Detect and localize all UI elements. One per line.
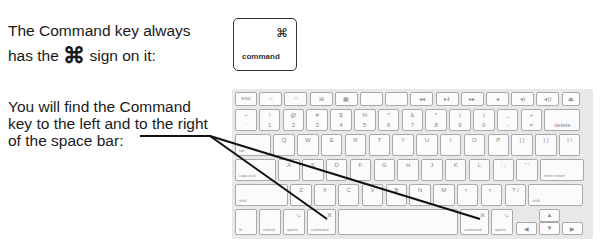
fn-modifier-key: fn	[235, 209, 257, 235]
letter-key: I	[440, 134, 462, 156]
option-key-right: ⌥option	[491, 209, 513, 235]
fn-key: ☼	[259, 92, 282, 106]
location-text: You will find the Command key to the lef…	[8, 98, 208, 149]
fn-key: ◂))	[536, 92, 559, 106]
location-line-3: of the space bar:	[8, 132, 208, 149]
fn-key	[360, 92, 383, 106]
number-key: !1	[259, 109, 281, 131]
letter-key: " '	[516, 159, 538, 181]
letter-key: Y	[392, 134, 414, 156]
letter-key: < ,	[457, 184, 479, 206]
arrow-down-key: ▼	[539, 222, 560, 235]
letter-key: A	[278, 159, 300, 181]
fn-key: ◂◂	[410, 92, 433, 106]
number-key: ^6	[378, 109, 400, 131]
shift-key: shift	[528, 184, 583, 206]
fn-key: esc	[235, 92, 257, 106]
letter-key: C	[338, 184, 360, 206]
number-key: _-	[497, 109, 519, 131]
number-key: (9	[449, 109, 471, 131]
fn-key: ◂)	[511, 92, 534, 106]
fn-key: ▦	[335, 92, 358, 106]
caps-lock-key: caps lock	[235, 159, 276, 181]
letter-key: P	[488, 134, 510, 156]
fn-key: ☼	[284, 92, 307, 106]
number-key: +=	[521, 109, 543, 131]
letter-key: G	[374, 159, 396, 181]
tab-key: tab	[235, 134, 271, 156]
command-key-right: ⌘command	[460, 209, 489, 235]
return-key: enter return	[540, 159, 584, 181]
number-key: #3	[306, 109, 328, 131]
letter-key: D	[326, 159, 348, 181]
number-key: $4	[330, 109, 352, 131]
command-symbol-icon: ⌘	[276, 26, 288, 40]
letter-key: J	[421, 159, 443, 181]
number-key: delete	[544, 109, 580, 131]
letter-key: | \	[559, 134, 581, 156]
letter-key: O	[464, 134, 486, 156]
letter-key: R	[345, 134, 367, 156]
letter-key: > .	[481, 184, 503, 206]
fn-key	[385, 92, 408, 106]
letter-key: F	[350, 159, 372, 181]
command-key-label: command	[242, 52, 280, 61]
number-key: @2	[283, 109, 305, 131]
letter-key: ? /	[505, 184, 527, 206]
fn-key: ◂	[486, 92, 509, 106]
letter-key: V	[362, 184, 384, 206]
fn-key: ▸‖	[436, 92, 459, 106]
letter-key: } ]	[535, 134, 557, 156]
number-key: %5	[354, 109, 376, 131]
letter-key: B	[386, 184, 408, 206]
control-key: control	[259, 209, 281, 235]
letter-key: H	[397, 159, 419, 181]
number-key: &7	[402, 109, 424, 131]
letter-key: Z	[290, 184, 312, 206]
location-line-2: key to the left and to the right	[8, 115, 208, 132]
fn-key: ▸▸	[461, 92, 484, 106]
letter-key: { [	[511, 134, 533, 156]
location-line-1: You will find the Command	[8, 98, 208, 115]
number-key: )0	[473, 109, 495, 131]
arrow-left-key: ◀	[516, 222, 537, 235]
option-key-left: ⌥option	[283, 209, 305, 235]
arrow-up-key: ▲	[539, 209, 560, 222]
letter-key: : ;	[493, 159, 515, 181]
space-bar	[338, 209, 458, 235]
letter-key: T	[369, 134, 391, 156]
letter-key: E	[321, 134, 343, 156]
letter-key: L	[469, 159, 491, 181]
arrow-right-key: ▶	[562, 222, 583, 235]
command-key-left: ⌘command	[307, 209, 336, 235]
command-symbol-icon: ⌘	[63, 43, 85, 68]
letter-key: K	[445, 159, 467, 181]
intro-line-1: The Command key always	[8, 21, 191, 40]
keyboard-illustration: esc☼☼⊞▦◂◂▸‖▸▸◂◂)◂))⏏~`!1@2#3$4%5^6&7*8(9…	[232, 89, 593, 239]
number-key: *8	[425, 109, 447, 131]
intro-text: The Command key always has the ⌘ sign on…	[8, 21, 191, 65]
intro-line-2: has the ⌘ sign on it:	[8, 46, 191, 65]
number-key: ~`	[235, 109, 257, 131]
letter-key: S	[302, 159, 324, 181]
fn-key: ⏏	[562, 92, 580, 106]
letter-key: Q	[273, 134, 295, 156]
command-key-illustration: ⌘ command	[233, 18, 297, 71]
letter-key: M	[433, 184, 455, 206]
letter-key: N	[409, 184, 431, 206]
fn-key: ⊞	[310, 92, 333, 106]
letter-key: W	[297, 134, 319, 156]
letter-key: U	[416, 134, 438, 156]
letter-key: X	[314, 184, 336, 206]
shift-key: shift	[235, 184, 288, 206]
